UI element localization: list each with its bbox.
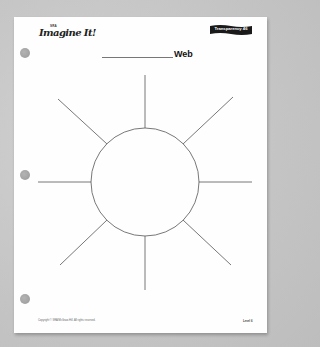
spoke-top-right	[183, 97, 233, 144]
spoke-top-left	[58, 99, 107, 144]
spoke-bottom-right	[183, 220, 231, 265]
level-label: Level 6	[243, 319, 253, 323]
web-diagram	[14, 17, 267, 333]
spoke-bottom-left	[60, 220, 107, 265]
transparency-page: SRA Imagine It! Transparency 46 Web Copy…	[14, 17, 267, 333]
copyright-text: Copyright © SRA/McGraw-Hill. All rights …	[38, 319, 95, 322]
web-center-circle[interactable]	[91, 128, 199, 236]
